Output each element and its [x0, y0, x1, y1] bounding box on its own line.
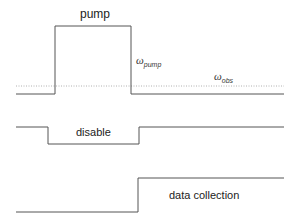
- omega-obs-subscript: obs: [222, 77, 233, 84]
- omega-pump-symbol: ω: [136, 54, 144, 66]
- timing-diagram-canvas: [0, 0, 305, 220]
- omega-pump-label: ωpump: [136, 54, 161, 68]
- pump-label: pump: [80, 7, 110, 21]
- data-collection-waveform: [16, 178, 284, 212]
- omega-obs-label: ωobs: [214, 70, 233, 84]
- timing-diagram: pump ωpump ωobs disable data collection: [0, 0, 305, 220]
- data-collection-label: data collection: [169, 189, 239, 201]
- omega-obs-symbol: ω: [214, 70, 222, 82]
- omega-pump-subscript: pump: [144, 61, 162, 68]
- disable-waveform: [16, 127, 284, 144]
- disable-label: disable: [76, 126, 111, 138]
